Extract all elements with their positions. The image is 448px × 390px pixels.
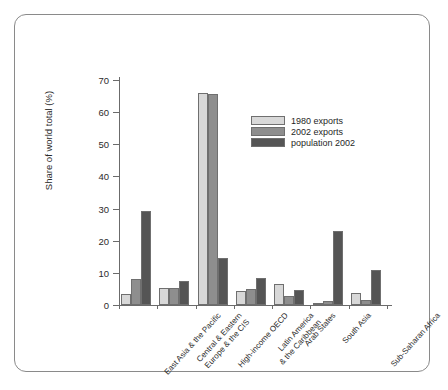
x-tick-mark [310,305,311,309]
bar [294,290,304,305]
bar [121,294,131,305]
legend-swatch [251,127,285,136]
legend-swatch [251,116,285,125]
bar-group [196,80,234,305]
bar [141,211,151,305]
bar-group [272,80,310,305]
bar [236,291,246,305]
bar [218,258,228,305]
legend-label: 1980 exports [291,116,343,126]
bar [246,289,256,305]
x-axis-line [119,305,392,306]
x-axis-category-label: South Asia [340,311,373,346]
bar-group [119,80,157,305]
legend-item: 2002 exports [251,126,371,137]
legend-label: population 2002 [291,138,355,148]
bar [179,281,189,305]
legend-label: 2002 exports [291,127,343,137]
x-tick-mark [234,305,235,309]
x-tick-mark [349,305,350,309]
x-tick-mark [119,305,120,309]
plot-area [119,80,387,305]
bar-group [310,80,348,305]
y-tick-label: 40 [81,171,109,182]
bar [159,288,169,305]
y-tick-label: 10 [81,267,109,278]
y-tick-label: 60 [81,107,109,118]
x-axis-category-label-line: South Asia [340,311,373,346]
legend-item: 1980 exports [251,115,371,126]
y-tick-label: 20 [81,235,109,246]
bar [313,303,323,305]
x-tick-mark [157,305,158,309]
y-axis-title: Share of world total (%) [43,71,54,211]
y-tick-label: 50 [81,139,109,150]
x-tick-mark [387,305,388,309]
chart-figure-frame: Share of world total (%) 010203040506070… [14,14,430,372]
bar [169,288,179,305]
bar [371,270,381,305]
bar-group [349,80,387,305]
legend-item: population 2002 [251,137,371,148]
bar [208,94,218,306]
bar-group [157,80,195,305]
bar [274,284,284,305]
bar [284,296,294,305]
bar [351,293,361,305]
x-tick-mark [196,305,197,309]
y-tick-label: 30 [81,203,109,214]
bar [361,300,371,305]
chart-legend: 1980 exports2002 exportspopulation 2002 [251,115,371,148]
y-tick-label: 70 [81,75,109,86]
x-axis-category-label: Sub-Saharan Africa [389,311,442,369]
bar [131,279,141,305]
legend-swatch [251,138,285,147]
x-tick-mark [272,305,273,309]
bar [198,93,208,305]
x-axis-category-label-line: Sub-Saharan Africa [389,311,442,369]
bar-group [234,80,272,305]
bar [256,278,266,305]
y-tick-label: 0 [81,300,109,311]
bar [323,301,333,305]
bar [333,231,343,305]
